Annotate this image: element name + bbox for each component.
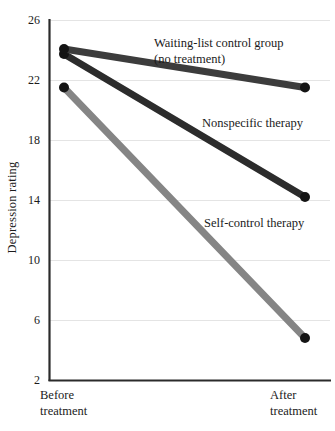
x-tick-after-line1: After	[270, 388, 296, 402]
y-tick-6: 6	[6, 314, 40, 326]
x-tick-before-line1: Before	[40, 388, 74, 402]
annotation-waiting-list-control: Waiting-list control group (no treatment…	[154, 35, 284, 68]
x-tick-after-line2: treatment	[270, 404, 317, 420]
annotation-nonspecific-therapy: Nonspecific therapy	[202, 115, 303, 131]
y-tick-10: 10	[6, 254, 40, 266]
y-tick-22: 22	[6, 74, 40, 86]
annotation-waiting-list-line1: Waiting-list control group	[154, 36, 284, 50]
x-tick-after: After treatment	[270, 388, 317, 419]
datapoint-waiting-list-before	[59, 44, 69, 54]
annotation-waiting-list-line2: (no treatment)	[154, 51, 284, 67]
datapoint-nonspecific-after	[300, 192, 310, 202]
x-tick-before-line2: treatment	[40, 404, 87, 420]
y-tick-18: 18	[6, 134, 40, 146]
x-tick-before: Before treatment	[40, 388, 87, 419]
chart-figure: Depression rating 26 22 18 14 10 6 2 Bef…	[0, 0, 335, 431]
y-tick-26: 26	[6, 14, 40, 26]
datapoint-waiting-list-after	[300, 83, 310, 93]
datapoint-self-control-after	[300, 333, 310, 343]
annotation-self-control-therapy: Self-control therapy	[204, 215, 304, 231]
datapoint-self-control-before	[59, 83, 69, 93]
y-tick-14: 14	[6, 194, 40, 206]
y-tick-2: 2	[6, 374, 40, 386]
